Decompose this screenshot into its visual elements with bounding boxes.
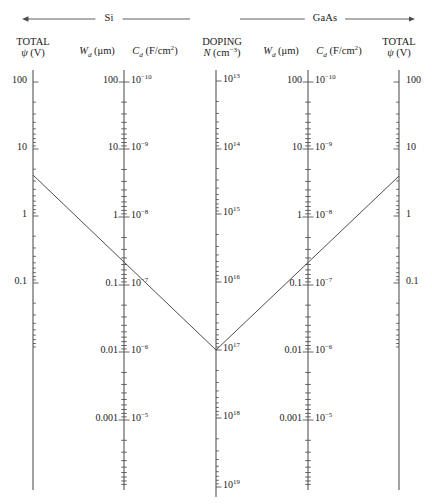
tick-label-gaas-total-psi-100: 100 [406,75,432,86]
heading-si-cd: Cd (F/cm2) [120,45,190,56]
band-label-si: Si [89,12,129,23]
tick-label-si-wd-cd-wd-100: 100 [78,75,118,86]
tick-label-si-wd-cd-wd-0.1: 0.1 [78,278,118,289]
tick-label-si-wd-cd-wd-1: 1 [78,210,118,221]
nomograph-figure: Si GaAs TOTALψ (V) Wd (μm) Cd (F/cm2) DO… [0,0,432,504]
heading-si-total-psi: TOTALψ (V) [5,36,61,58]
tick-label-gaas-wd-cd-wd-10: 10 [262,142,302,153]
tick-label-si-wd-cd-cd-1e-10: 10−10 [131,75,175,86]
tick-label-si-wd-cd-wd-0.01: 0.01 [78,345,118,356]
tick-label-gaas-wd-cd-cd-1e-5: 10−5 [315,413,359,424]
tick-label-gaas-wd-cd-wd-0.001: 0.001 [262,413,302,424]
tick-label-doping-n-1e14: 1014 [223,142,267,153]
tick-label-si-wd-cd-cd-1e-5: 10−5 [131,413,175,424]
tick-label-si-total-psi-100: 100 [0,75,27,86]
tick-label-si-wd-cd-cd-1e-9: 10−9 [131,142,175,153]
nomograph-canvas [0,0,432,504]
tick-label-gaas-wd-cd-wd-100: 100 [262,75,302,86]
tick-label-gaas-wd-cd-cd-1e-8: 10−8 [315,210,359,221]
tick-label-si-total-psi-1: 1 [0,209,27,220]
tick-label-si-wd-cd-wd-10: 10 [78,142,118,153]
tick-label-gaas-total-psi-1: 1 [406,209,432,220]
tick-label-doping-n-1e15: 1015 [223,207,267,218]
tick-label-gaas-wd-cd-wd-0.1: 0.1 [262,278,302,289]
tick-label-si-wd-cd-cd-1e-8: 10−8 [131,210,175,221]
heading-gaas-cd: Cd (F/cm2) [304,45,374,56]
heading-gaas-wd: Wd (μm) [253,45,309,56]
band-label-gaas: GaAs [305,12,345,23]
tick-label-si-wd-cd-wd-0.001: 0.001 [78,413,118,424]
tick-label-si-wd-cd-cd-1e-6: 10−6 [131,345,175,356]
tick-label-si-total-psi-0.1: 0.1 [0,276,27,287]
tick-label-si-total-psi-10: 10 [0,142,27,153]
tick-label-gaas-total-psi-10: 10 [406,142,432,153]
heading-gaas-total-psi: TOTALψ (V) [371,36,427,58]
tick-label-gaas-wd-cd-wd-0.01: 0.01 [262,345,302,356]
heading-si-wd: Wd (μm) [69,45,125,56]
tick-label-gaas-wd-cd-cd-1e-10: 10−10 [315,75,359,86]
tick-label-gaas-total-psi-0.1: 0.1 [406,276,432,287]
tick-label-gaas-wd-cd-cd-1e-9: 10−9 [315,142,359,153]
tick-label-doping-n-1e18: 1018 [223,411,267,422]
tick-label-doping-n-1e19: 1019 [223,480,267,491]
tick-label-doping-n-1e13: 1013 [223,74,267,85]
tick-label-gaas-wd-cd-cd-1e-7: 10−7 [315,278,359,289]
heading-doping-n: DOPINGN (cm−3) [189,36,255,58]
tick-label-doping-n-1e17: 1017 [223,343,267,354]
tick-label-si-wd-cd-cd-1e-7: 10−7 [131,278,175,289]
tick-label-gaas-wd-cd-cd-1e-6: 10−6 [315,345,359,356]
tick-label-doping-n-1e16: 1016 [223,275,267,286]
tick-label-gaas-wd-cd-wd-1: 1 [262,210,302,221]
